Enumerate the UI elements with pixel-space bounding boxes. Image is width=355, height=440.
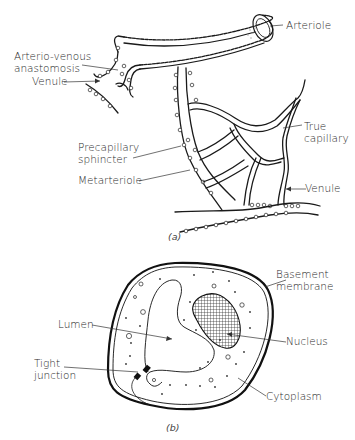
label-nucleus: Nucleus — [286, 335, 328, 347]
label-true-capillary-line2: capillary — [304, 132, 349, 144]
label-tight-line1: Tight — [34, 357, 60, 369]
metarteriole-vessel — [173, 67, 235, 210]
caption-a: (a) — [168, 231, 181, 242]
lumen-arrow-icon — [166, 336, 172, 341]
nucleus — [193, 294, 241, 349]
basement-membrane — [108, 263, 273, 409]
label-precapillary-line1: Precapillary — [78, 141, 139, 153]
label-metarteriole: Metarteriole — [78, 174, 142, 186]
venule-left-vessel — [86, 84, 118, 113]
label-true-capillary-line1: True — [304, 120, 326, 132]
lumen-leader — [92, 325, 172, 339]
label-av-anastomosis-line2: anastomosis — [14, 62, 80, 74]
label-tight-line2: junction — [33, 369, 76, 381]
venule-left-leader — [64, 81, 100, 82]
av-anastomosis-vessel — [94, 36, 140, 97]
label-precapillary-line2: sphincter — [78, 153, 128, 165]
panel-b-capillary-cross-section: Basement membrane Lumen Nucleus Tight ju… — [33, 263, 333, 433]
venule-left-arrow-icon — [95, 79, 100, 84]
label-basement-line2: membrane — [276, 280, 333, 292]
label-basement-line1: Basement — [276, 268, 329, 280]
label-lumen: Lumen — [58, 318, 94, 330]
precapillary-leader — [133, 146, 181, 158]
caption-b: (b) — [166, 422, 179, 433]
panel-a-capillary-bed: Arteriole Arterio-venous anastomosis Ven… — [14, 12, 349, 242]
capillary-bed-diagram: Arteriole Arterio-venous anastomosis Ven… — [0, 0, 355, 440]
venule-right-arrow-icon — [286, 187, 291, 192]
label-venule-left: Venule — [32, 75, 68, 87]
label-av-anastomosis-line1: Arterio-venous — [14, 50, 91, 62]
label-venule-right: Venule — [305, 182, 341, 194]
label-cytoplasm: Cytoplasm — [266, 390, 322, 402]
label-arteriole: Arteriole — [286, 19, 331, 31]
tight-junction — [132, 365, 151, 405]
metarteriole-leader — [139, 170, 190, 181]
arteriole-vessel — [124, 12, 277, 69]
